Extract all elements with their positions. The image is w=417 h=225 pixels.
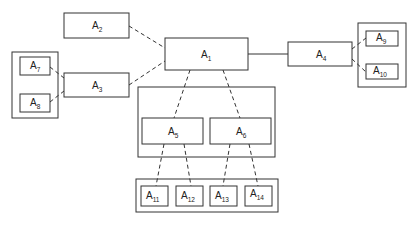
edge-a1-a6 <box>223 70 240 118</box>
node-a11-label: A11 <box>146 190 160 203</box>
node-a5-label: A5 <box>168 126 179 139</box>
node-a14-label: A14 <box>250 188 264 201</box>
node-a2-label: A2 <box>92 20 103 33</box>
node-a3-label: A3 <box>92 80 103 93</box>
edge-a6-a14 <box>249 144 258 186</box>
node-a10-label: A10 <box>373 65 387 78</box>
edge-a1-a3 <box>129 61 165 85</box>
node-a13-label: A13 <box>215 190 229 203</box>
node-a9-label: A9 <box>376 32 387 45</box>
edge-a6-a13 <box>223 144 230 186</box>
edge-a1-a5 <box>174 70 190 118</box>
node-a8-label: A8 <box>30 97 41 110</box>
node-a7-label: A7 <box>30 60 41 73</box>
node-a6-label: A6 <box>236 126 247 139</box>
edge-a1-a2 <box>129 26 165 48</box>
middle-group-container <box>138 87 275 157</box>
edge-a4-a9 <box>352 38 366 49</box>
node-a12-label: A12 <box>181 190 195 203</box>
node-a1-label: A1 <box>201 49 212 62</box>
edge-a3-a8 <box>50 91 64 102</box>
edge-a4-a10 <box>352 59 366 72</box>
hierarchy-diagram: A1 A2 A3 A4 A5 A6 A7 A8 A9 A10 A11 A12 A… <box>0 0 417 225</box>
edge-a5-a12 <box>184 144 191 186</box>
edge-a5-a11 <box>156 144 164 186</box>
node-a4-label: A4 <box>316 49 327 62</box>
edge-a3-a7 <box>50 67 64 78</box>
